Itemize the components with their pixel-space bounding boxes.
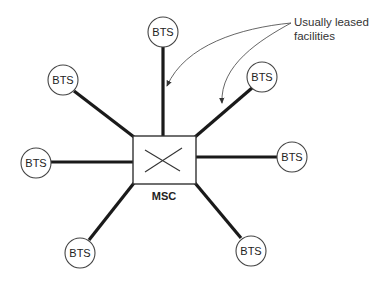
note-line-2: facilities	[294, 29, 369, 43]
bts-label: BTS	[25, 157, 46, 169]
bts-node-lower-right: BTS	[236, 236, 266, 266]
bts-node-lower-left: BTS	[65, 238, 95, 268]
bts-node-top: BTS	[148, 17, 178, 47]
bts-node-upper-left: BTS	[48, 65, 78, 95]
bts-node-upper-right: BTS	[247, 62, 277, 92]
msc-label: MSC	[152, 190, 177, 202]
bts-node-left: BTS	[21, 148, 51, 178]
bts-label: BTS	[251, 71, 272, 83]
msc-node: MSC	[133, 136, 196, 202]
bts-label: BTS	[52, 74, 73, 86]
leased-facilities-note: Usually leased facilities	[294, 15, 369, 43]
link-upper-right	[195, 88, 252, 137]
link-upper-left	[74, 91, 134, 137]
note-line-1: Usually leased	[294, 15, 369, 29]
link-lower-right	[195, 183, 241, 238]
bts-label: BTS	[281, 151, 302, 163]
link-lower-left	[89, 183, 134, 240]
bts-label: BTS	[152, 26, 173, 38]
bts-label: BTS	[240, 245, 261, 257]
bts-label: BTS	[69, 247, 90, 259]
bts-node-right: BTS	[277, 142, 307, 172]
